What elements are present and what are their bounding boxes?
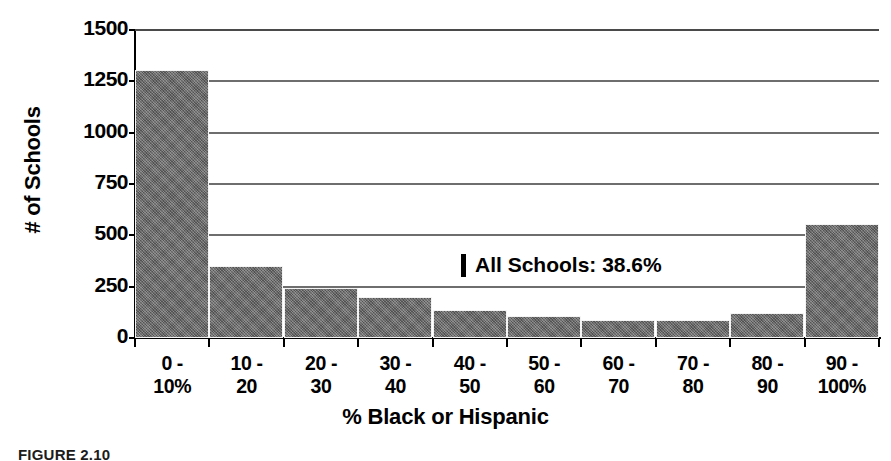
x-label-line1: 80 - [751, 352, 783, 374]
x-tick-label-2: 20 -30 [284, 352, 358, 398]
x-label-line1: 70 - [677, 352, 709, 374]
bar-5[interactable] [507, 316, 581, 338]
x-tick-mark-3 [357, 339, 359, 347]
bar-6[interactable] [581, 320, 655, 338]
y-tick-label-500: 500 [10, 221, 128, 245]
y-tick-label-1250: 1250 [10, 67, 128, 91]
x-tick-label-5: 50 -60 [507, 352, 581, 398]
annotation-label: All Schools: 38.6% [475, 253, 662, 277]
x-tick-label-0: 0 -10% [135, 352, 209, 398]
x-tick-label-7: 70 -80 [656, 352, 730, 398]
x-tick-mark-2 [283, 339, 285, 347]
x-label-line1: 0 - [161, 352, 183, 374]
gridline-1000 [135, 132, 879, 134]
x-tick-label-3: 30 -40 [358, 352, 432, 398]
bar-9[interactable] [805, 224, 879, 338]
x-label-line1: 50 - [528, 352, 560, 374]
x-tick-label-1: 10 -20 [209, 352, 283, 398]
all-schools-annotation: All Schools: 38.6% [461, 253, 662, 277]
x-label-line2: 70 [608, 375, 629, 397]
x-tick-mark-7 [655, 339, 657, 347]
x-label-line1: 30 - [379, 352, 411, 374]
bar-7[interactable] [656, 320, 730, 338]
y-tick-label-1500: 1500 [10, 16, 128, 40]
x-tick-mark-6 [580, 339, 582, 347]
x-tick-label-4: 40 -50 [433, 352, 507, 398]
x-label-line2: 30 [311, 375, 332, 397]
bar-0[interactable] [135, 70, 209, 338]
y-tick-label-250: 250 [10, 273, 128, 297]
x-tick-mark-8 [729, 339, 731, 347]
x-tick-mark-0 [134, 339, 136, 347]
x-tick-mark-end [878, 339, 880, 347]
plot-area [135, 30, 879, 338]
y-tick-label-750: 750 [10, 170, 128, 194]
figure-container: # of Schools 0250500750100012501500 0 -1… [0, 0, 891, 461]
bar-1[interactable] [209, 266, 283, 338]
gridline-1250 [135, 80, 879, 82]
bar-4[interactable] [433, 310, 507, 338]
x-label-line1: 60 - [603, 352, 635, 374]
x-label-line2: 40 [385, 375, 406, 397]
x-label-line2: 90 [757, 375, 778, 397]
x-label-line2: 100% [818, 375, 866, 397]
bar-3[interactable] [358, 297, 432, 338]
x-tick-mark-1 [208, 339, 210, 347]
figure-caption: FIGURE 2.10 [18, 446, 110, 461]
bar-2[interactable] [284, 288, 358, 338]
gridline-750 [135, 183, 879, 185]
x-axis-title: % Black or Hispanic [0, 404, 891, 430]
x-tick-label-8: 80 -90 [730, 352, 804, 398]
x-tick-mark-4 [432, 339, 434, 347]
x-label-line1: 40 - [454, 352, 486, 374]
x-tick-mark-5 [506, 339, 508, 347]
x-tick-label-6: 60 -70 [581, 352, 655, 398]
y-tick-label-0: 0 [10, 324, 128, 348]
x-label-line2: 50 [459, 375, 480, 397]
x-label-line1: 90 - [826, 352, 858, 374]
x-label-line1: 20 - [305, 352, 337, 374]
annotation-marker-icon [461, 254, 466, 277]
x-label-line2: 10% [153, 375, 191, 397]
x-label-line1: 10 - [231, 352, 263, 374]
y-axis-ticks: 0250500750100012501500 [0, 0, 128, 350]
x-label-line2: 20 [236, 375, 257, 397]
y-tick-label-1000: 1000 [10, 119, 128, 143]
gridline-1500 [135, 29, 879, 31]
bar-8[interactable] [730, 313, 804, 338]
x-tick-label-9: 90 -100% [805, 352, 879, 398]
x-tick-mark-9 [804, 339, 806, 347]
x-label-line2: 60 [534, 375, 555, 397]
x-label-line2: 80 [683, 375, 704, 397]
gridline-500 [135, 234, 879, 236]
